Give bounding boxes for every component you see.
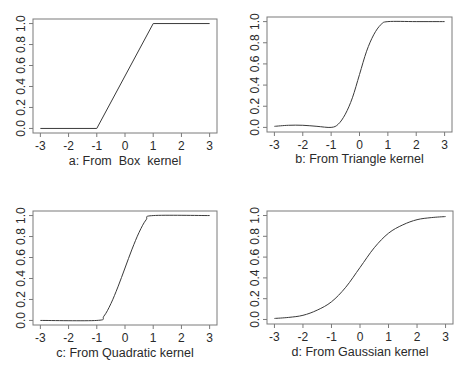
- panel-d: -3-2-101230.00.20.40.60.81.0 d: From Gau…: [0, 0, 232, 191]
- y-tick-label: 1.0: [248, 207, 262, 224]
- x-tick-label: -3: [269, 330, 280, 344]
- y-tick-label: 0.0: [248, 311, 262, 328]
- x-tick-label: -2: [298, 330, 309, 344]
- xlabel-d: d: From Gaussian kernel: [267, 345, 453, 359]
- x-tick-label: 3: [442, 330, 449, 344]
- y-tick-label: 0.6: [248, 248, 262, 265]
- plot-d: -3-2-101230.00.20.40.60.81.0: [0, 0, 464, 382]
- x-tick-label: 1: [385, 330, 392, 344]
- y-tick-label: 0.4: [248, 269, 262, 286]
- y-tick-label: 0.8: [248, 228, 262, 245]
- x-tick-label: -1: [326, 330, 337, 344]
- x-tick-label: 2: [414, 330, 421, 344]
- y-tick-label: 0.2: [248, 290, 262, 307]
- x-tick-label: 0: [357, 330, 364, 344]
- cdf-curve: [274, 217, 445, 319]
